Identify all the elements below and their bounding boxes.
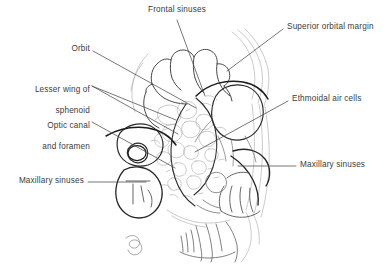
label-optic-canal-line-1: Optic canal: [47, 121, 90, 130]
label-maxillary-sinuses-left: Maxillary sinuses: [4, 176, 84, 187]
label-lesser-wing-line-1: Lesser wing of: [35, 85, 90, 94]
label-ethmoidal-air-cells: Ethmoidal air cells: [292, 94, 388, 105]
label-optic-canal-and-foramen: Optic canal and foramen: [4, 110, 90, 152]
label-superior-orbital-margin: Superior orbital margin: [287, 22, 388, 33]
label-orbit: Orbit: [22, 44, 90, 55]
label-frontal-sinuses: Frontal sinuses: [122, 5, 232, 16]
label-maxillary-sinuses-right: Maxillary sinuses: [300, 160, 386, 171]
label-optic-canal-line-2: and foramen: [42, 142, 90, 151]
